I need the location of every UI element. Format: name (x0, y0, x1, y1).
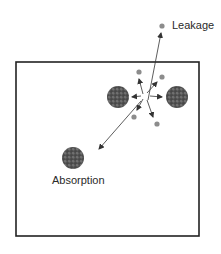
neutron-icon (136, 69, 141, 74)
nucleus-left-icon (107, 86, 129, 108)
fission-leakage-absorption-diagram (0, 0, 221, 254)
nucleus-right-icon (166, 86, 188, 108)
absorption-arrow (99, 101, 141, 149)
leakage-label: Leakage (172, 19, 214, 31)
neutron-icon (131, 114, 136, 119)
neutron-icon (154, 121, 159, 126)
fission-arrows (132, 79, 162, 117)
absorption-label: Absorption (52, 174, 105, 186)
absorbing-nucleus-icon (62, 147, 84, 169)
leakage-neutron-icon (159, 23, 164, 28)
neutron-icon (159, 74, 164, 79)
